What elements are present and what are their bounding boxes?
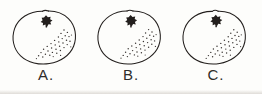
stipple-shading-b (120, 29, 156, 59)
orange-fruit-drawing-a (8, 6, 84, 68)
stipple-shading-a (36, 29, 72, 59)
figure-label-c: C. (178, 66, 254, 83)
figure-label-a: A. (8, 66, 84, 83)
figure-group: A. (0, 0, 262, 94)
star-calyx-icon-c (210, 15, 222, 27)
figure-c: C. (178, 6, 254, 92)
figure-label-b: B. (93, 66, 169, 83)
star-calyx-icon-a (41, 15, 53, 27)
orange-fruit-drawing-c (178, 6, 254, 68)
figure-b: B. (93, 6, 169, 92)
worksheet-page: A. (0, 0, 262, 94)
stipple-shading-c (206, 29, 242, 59)
star-calyx-icon-b (125, 15, 137, 27)
orange-fruit-drawing-b (93, 6, 169, 68)
figure-a: A. (8, 6, 84, 92)
